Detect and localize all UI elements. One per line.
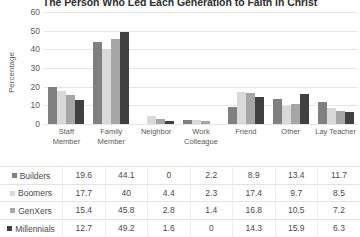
y-axis-label: Percentage (7, 43, 16, 103)
bar (327, 108, 336, 124)
legend-entry: Boomers (0, 184, 63, 202)
x-axis-label: Work Colleague (179, 125, 224, 159)
bar (156, 119, 165, 124)
series-name: GenXers (18, 206, 52, 216)
data-table-body: Builders19.644.102.28.913.411.7Boomers17… (0, 167, 360, 237)
table-cell: 1.6 (148, 219, 191, 237)
table-row: Builders19.644.102.28.913.411.7 (0, 167, 360, 185)
table-cell: 9.7 (275, 184, 318, 202)
series-name: Builders (20, 171, 51, 181)
bar (165, 121, 174, 124)
y-axis-tick-label: 30 (31, 64, 40, 73)
table-cell: 15.9 (275, 219, 318, 237)
bar (48, 87, 57, 124)
bar (228, 107, 237, 124)
table-cell: 13.4 (275, 167, 318, 185)
legend-entry: Millennials (0, 219, 63, 237)
table-cell: 8.9 (233, 167, 276, 185)
bar-group (268, 12, 313, 124)
table-cell: 40 (105, 184, 148, 202)
table-cell: 17.4 (233, 184, 276, 202)
legend-data-table: Builders19.644.102.28.913.411.7Boomers17… (0, 166, 360, 237)
table-cell: 11.7 (318, 167, 360, 185)
chart-title: The Person Who Led Each Generation to Fa… (0, 0, 360, 8)
bar-group (89, 12, 134, 124)
table-cell: 0 (190, 219, 233, 237)
bar (237, 92, 246, 124)
bar (201, 121, 210, 124)
bar-groups (44, 12, 358, 124)
series-name: Boomers (18, 188, 52, 198)
y-axis-ticks: 6050403020100 (22, 12, 40, 124)
y-axis-tick-label: 40 (31, 45, 40, 54)
bar (93, 42, 102, 124)
legend-entry: GenXers (0, 202, 63, 220)
table-cell: 19.6 (63, 167, 106, 185)
table-cell: 8.5 (318, 184, 360, 202)
legend-swatch-icon (12, 173, 17, 178)
bar (273, 99, 282, 124)
bar (111, 39, 120, 124)
bar (75, 100, 84, 124)
y-axis-tick-label: 60 (31, 8, 40, 17)
table-cell: 12.7 (63, 219, 106, 237)
bar (246, 93, 255, 124)
bar-group (44, 12, 89, 124)
bar-group (223, 12, 268, 124)
x-axis-label: Neighbor (134, 125, 179, 159)
table-cell: 1.4 (190, 202, 233, 220)
bar (336, 111, 345, 124)
table-cell: 15.4 (63, 202, 106, 220)
x-axis-label: Lay Teacher (313, 125, 358, 159)
bar (183, 120, 192, 124)
legend-entry: Builders (0, 167, 63, 185)
table-cell: 6.3 (318, 219, 360, 237)
bar (66, 95, 75, 124)
bar (57, 91, 66, 124)
table-cell: 7.2 (318, 202, 360, 220)
legend-swatch-icon (7, 226, 12, 231)
bar-group (134, 12, 179, 124)
table-cell: 2.2 (190, 167, 233, 185)
bar (120, 32, 129, 124)
table-cell: 45.8 (105, 202, 148, 220)
bar-group (313, 12, 358, 124)
series-name: Millennials (15, 223, 55, 233)
bar (192, 120, 201, 124)
table-cell: 2.3 (190, 184, 233, 202)
bar (300, 94, 309, 124)
y-axis-tick-label: 50 (31, 26, 40, 35)
x-axis-label: Staff Member (44, 125, 89, 159)
legend-swatch-icon (10, 208, 15, 213)
x-axis-label: Family Member (89, 125, 134, 159)
table-cell: 17.7 (63, 184, 106, 202)
bar (282, 106, 291, 124)
table-cell: 49.2 (105, 219, 148, 237)
y-axis-tick-label: 10 (31, 101, 40, 110)
y-axis-tick-label: 0 (35, 120, 40, 129)
table-cell: 44.1 (105, 167, 148, 185)
x-axis-label: Friend (223, 125, 268, 159)
y-axis-tick-label: 20 (31, 82, 40, 91)
x-axis-label: Other (268, 125, 313, 159)
table-cell: 14.3 (233, 219, 276, 237)
chart-container: The Person Who Led Each Generation to Fa… (0, 0, 360, 237)
bar (345, 112, 354, 124)
table-cell: 2.8 (148, 202, 191, 220)
table-row: GenXers15.445.82.81.416.810.57.2 (0, 202, 360, 220)
plot-area: Percentage 6050403020100 Staff MemberFam… (0, 12, 360, 164)
table-cell: 0 (148, 167, 191, 185)
bar (147, 116, 156, 124)
bar (318, 102, 327, 124)
bar (255, 97, 264, 124)
x-axis-labels: Staff MemberFamily MemberNeighborWork Co… (44, 125, 358, 159)
table-cell: 4.4 (148, 184, 191, 202)
legend-swatch-icon (10, 191, 15, 196)
bar (291, 104, 300, 124)
table-row: Boomers17.7404.42.317.49.78.5 (0, 184, 360, 202)
table-cell: 10.5 (275, 202, 318, 220)
table-row: Millennials12.749.21.6014.315.96.3 (0, 219, 360, 237)
bar-group (179, 12, 224, 124)
bar (102, 49, 111, 124)
table-cell: 16.8 (233, 202, 276, 220)
